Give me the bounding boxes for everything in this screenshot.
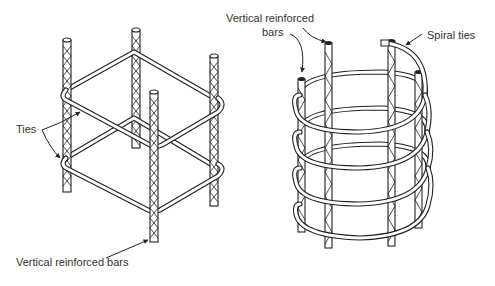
vertical-bar-back bbox=[132, 28, 140, 148]
spiral-column-drawing bbox=[295, 39, 431, 248]
ties-arrow-lower bbox=[42, 130, 60, 158]
label-spiral-ties: Spiral ties bbox=[427, 29, 475, 41]
vertical-bars-arrow-2 bbox=[303, 28, 326, 42]
label-vertical-bars-left: Vertical reinforced bars bbox=[16, 256, 129, 268]
ties-front bbox=[63, 90, 222, 212]
label-vertical-bars-right-line1: Vertical reinforced bbox=[226, 12, 314, 24]
spiral-bar-back-left bbox=[325, 41, 332, 248]
label-vertical-bars-right-line2: bars bbox=[262, 26, 283, 38]
spiral-bar-back-right bbox=[388, 39, 395, 246]
vertical-bars-arrow-1 bbox=[290, 34, 303, 72]
vertical-bar-right bbox=[210, 54, 218, 206]
reinforcement-figure: Ties Vertical reinforced bars Vertical r… bbox=[0, 0, 495, 286]
vertical-bar-front bbox=[150, 90, 158, 242]
tied-column-drawing bbox=[0, 0, 495, 286]
spiral-ties-arrow bbox=[406, 34, 422, 45]
spiral-end-stub bbox=[381, 40, 389, 46]
label-ties: Ties bbox=[16, 123, 36, 135]
ties-arrow-upper bbox=[42, 112, 80, 130]
